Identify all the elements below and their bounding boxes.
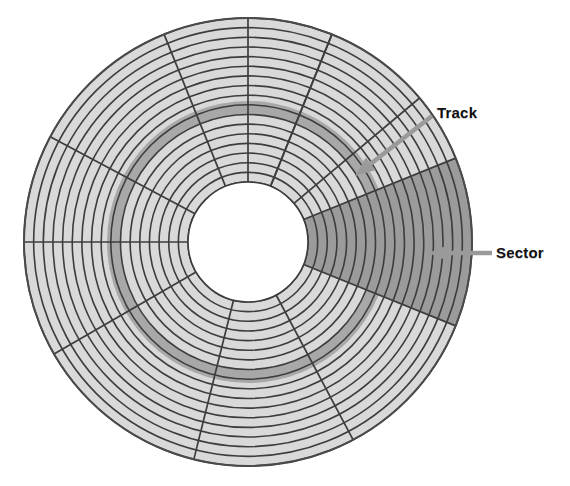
spindle-hub-hole xyxy=(188,182,308,302)
disk-platter-svg xyxy=(0,0,570,486)
track-callout-label: Track xyxy=(437,104,477,121)
diagram-canvas: Track Sector xyxy=(0,0,570,486)
sector-callout-label: Sector xyxy=(496,244,544,261)
